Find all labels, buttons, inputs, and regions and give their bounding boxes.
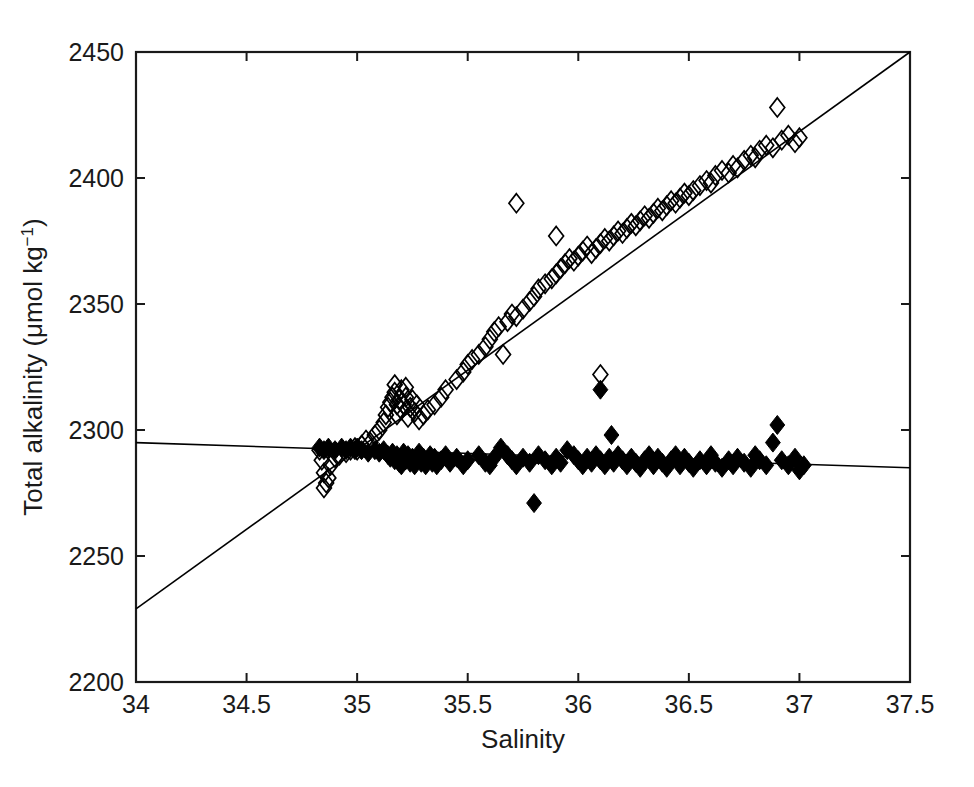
x-tick-label: 35.5 bbox=[443, 690, 492, 718]
x-tick-label: 37 bbox=[786, 690, 814, 718]
data-point bbox=[770, 415, 785, 434]
data-point bbox=[770, 98, 785, 117]
x-tick-label: 34.5 bbox=[222, 690, 271, 718]
y-tick-label: 2400 bbox=[68, 164, 124, 192]
y-tick-label: 2250 bbox=[68, 542, 124, 570]
data-point bbox=[527, 494, 542, 513]
y-axis-label: Total alkalinity (μmol kg−1) bbox=[18, 218, 49, 515]
x-tick-label: 35 bbox=[343, 690, 371, 718]
x-tick-label: 37.5 bbox=[886, 690, 935, 718]
y-tick-label: 2450 bbox=[68, 38, 124, 66]
y-tick-label: 2300 bbox=[68, 416, 124, 444]
series-open-diamonds bbox=[312, 98, 807, 498]
x-tick-label: 36 bbox=[564, 690, 592, 718]
data-point bbox=[509, 194, 524, 213]
plot-frame bbox=[136, 52, 910, 682]
y-tick-label: 2350 bbox=[68, 290, 124, 318]
figure-root: 3434.53535.53636.53737.52200225023002350… bbox=[0, 0, 974, 787]
x-tick-label: 36.5 bbox=[665, 690, 714, 718]
data-point bbox=[593, 380, 608, 399]
data-point bbox=[765, 433, 780, 452]
x-axis-label: Salinity bbox=[481, 724, 565, 754]
data-point bbox=[549, 226, 564, 245]
y-tick-label: 2200 bbox=[68, 668, 124, 696]
scatter-plot: 3434.53535.53636.53737.52200225023002350… bbox=[0, 0, 974, 787]
x-tick-label: 34 bbox=[122, 690, 150, 718]
data-point bbox=[604, 426, 619, 445]
